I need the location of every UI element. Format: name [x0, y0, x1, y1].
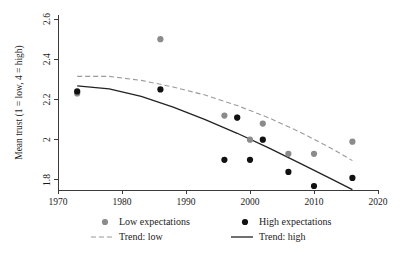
y-axis-label: Mean trust (1 = low, 4 = high) — [14, 45, 25, 160]
trend-lines — [77, 76, 352, 189]
data-point — [285, 169, 291, 175]
chart-legend: Low expectationsHigh expectationsTrend: … — [91, 216, 332, 242]
y-tick-label: 2.6 — [42, 13, 52, 25]
data-point — [221, 112, 227, 118]
x-tick-label: 1980 — [113, 197, 132, 207]
data-point — [311, 183, 317, 189]
legend-label: Trend: high — [259, 231, 306, 242]
data-point — [247, 137, 253, 143]
data-points — [74, 36, 355, 189]
data-point — [247, 157, 253, 163]
y-axis-title: Mean trust (1 = low, 4 = high) — [14, 45, 25, 160]
data-point — [311, 151, 317, 157]
plot-axes — [58, 15, 378, 190]
y-tick-label: 2 — [42, 137, 52, 142]
legend-label: Trend: low — [119, 231, 164, 242]
x-tick-label: 1990 — [177, 197, 196, 207]
scatter-plot: 1970198019902000201020201.822.22.42.6 Me… — [0, 0, 407, 259]
data-point — [349, 175, 355, 181]
legend-marker-dot-black — [242, 219, 248, 225]
y-tick-label: 2.2 — [42, 93, 52, 105]
data-point — [157, 36, 163, 42]
trend-line-low — [77, 76, 352, 160]
legend-label: Low expectations — [119, 216, 190, 227]
data-point — [285, 151, 291, 157]
y-tick-label: 2.4 — [42, 53, 52, 65]
data-point — [260, 137, 266, 143]
chart-figure: 1970198019902000201020201.822.22.42.6 Me… — [0, 0, 407, 259]
data-point — [221, 157, 227, 163]
y-tick-label: 1.8 — [42, 174, 52, 186]
x-tick-label: 2020 — [369, 197, 388, 207]
data-point — [349, 139, 355, 145]
legend-marker-dot-gray — [102, 219, 108, 225]
x-tick-label: 2010 — [305, 197, 324, 207]
axis-ticks — [54, 19, 378, 194]
data-point — [74, 88, 80, 94]
data-point — [157, 86, 163, 92]
x-tick-label: 1970 — [49, 197, 68, 207]
data-point — [234, 114, 240, 120]
data-point — [260, 121, 266, 127]
x-tick-label: 2000 — [241, 197, 260, 207]
axis-tick-labels: 1970198019902000201020201.822.22.42.6 — [42, 13, 388, 207]
legend-label: High expectations — [259, 216, 332, 227]
